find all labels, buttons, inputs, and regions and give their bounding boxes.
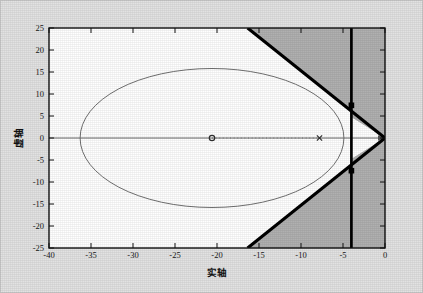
y-tick-label: -5 [37, 155, 44, 165]
x-tick-label: -5 [339, 250, 346, 260]
y-tick-label: -10 [33, 177, 44, 187]
y-tick-label: 10 [36, 89, 45, 99]
x-axis-tick-labels: -40 -35 -30 -25 -20 -15 -10 -5 0 [43, 250, 387, 260]
y-tick-label: 15 [36, 67, 45, 77]
root-locus-plot: -40 -35 -30 -25 -20 -15 -10 -5 0 25 20 1… [0, 0, 423, 293]
x-tick-label: -10 [295, 250, 306, 260]
y-tick-label: 25 [36, 23, 45, 33]
intersection-upper-marker [349, 103, 355, 109]
y-tick-label: -20 [33, 221, 44, 231]
x-tick-label: 0 [383, 250, 387, 260]
x-tick-label: -30 [127, 250, 138, 260]
x-tick-label: -15 [253, 250, 264, 260]
y-axis-title: 虚轴 [13, 128, 24, 148]
x-tick-label: -35 [85, 250, 96, 260]
x-tick-label: -20 [211, 250, 222, 260]
intersection-lower-marker [349, 168, 355, 174]
y-axis-tick-labels: 25 20 15 10 5 0 -5 -10 -15 -20 -25 [33, 23, 44, 253]
y-tick-label: -15 [33, 199, 44, 209]
figure-canvas: -40 -35 -30 -25 -20 -15 -10 -5 0 25 20 1… [0, 0, 423, 293]
y-tick-label: -25 [33, 243, 44, 253]
y-tick-label: 5 [40, 111, 44, 121]
x-tick-label: -40 [43, 250, 54, 260]
y-tick-label: 20 [36, 45, 45, 55]
x-tick-label: -25 [169, 250, 180, 260]
x-axis-title: 实轴 [207, 267, 227, 278]
y-tick-label: 0 [40, 133, 44, 143]
